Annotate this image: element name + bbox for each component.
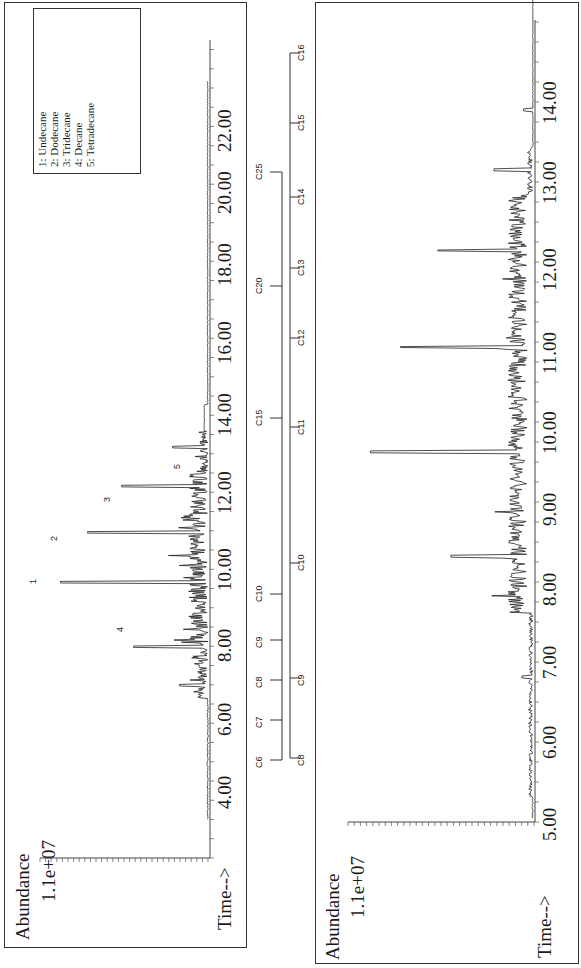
lower-axes [348, 20, 535, 822]
chromatogram-plot-area [0, 0, 581, 968]
upper-axes [40, 40, 210, 858]
lower-trace [370, 0, 533, 818]
upper-trace [60, 82, 208, 820]
